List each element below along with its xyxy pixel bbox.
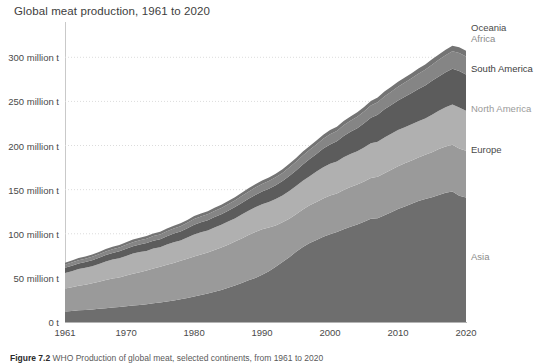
y-tick-label: 300 million t xyxy=(0,52,59,63)
y-tick-label: 100 million t xyxy=(0,228,59,239)
x-axis-line xyxy=(65,322,467,323)
y-tick-label: 200 million t xyxy=(0,140,59,151)
plot-area xyxy=(65,22,466,322)
figure-caption: Figure 7.2 WHO Production of global meat… xyxy=(10,353,530,363)
x-tick-label: 1990 xyxy=(252,327,273,338)
series-label-north-america: North America xyxy=(471,102,531,113)
stacked-area-svg xyxy=(65,22,466,322)
page-title: Global meat production, 1961 to 2020 xyxy=(14,5,210,17)
x-tick-label: 1961 xyxy=(54,327,75,338)
series-label-africa: Africa xyxy=(471,32,495,43)
series-label-south-america: South America xyxy=(471,62,533,73)
caption-text: WHO Production of global meat, selected … xyxy=(53,353,324,363)
x-tick-label: 2020 xyxy=(455,327,476,338)
caption-figure-number: Figure 7.2 xyxy=(10,353,50,363)
x-tick-label: 1980 xyxy=(184,327,205,338)
y-tick-label: 50 million t xyxy=(0,272,59,283)
series-label-oceania: Oceania xyxy=(471,22,506,33)
series-label-asia: Asia xyxy=(471,250,489,261)
y-tick-label: 250 million t xyxy=(0,96,59,107)
y-tick-label: 150 million t xyxy=(0,184,59,195)
x-tick-label: 2000 xyxy=(319,327,340,338)
x-tick-label: 1970 xyxy=(116,327,137,338)
series-label-europe: Europe xyxy=(471,144,502,155)
y-tick-label: 0 t xyxy=(0,317,59,328)
x-tick-label: 2010 xyxy=(387,327,408,338)
